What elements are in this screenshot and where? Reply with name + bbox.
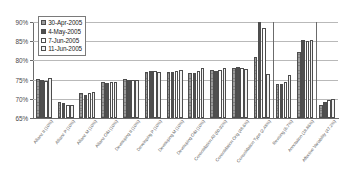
legend-item-label: 30-Apr-2005 xyxy=(48,19,82,26)
bar xyxy=(319,105,323,118)
chart-container: 65%70%75%80%85%90% Allianz II (10%)Allia… xyxy=(0,0,343,179)
y-axis-tick-label: 85% xyxy=(16,38,29,45)
bar xyxy=(214,71,218,118)
section-separator xyxy=(316,22,317,118)
bar-group xyxy=(229,22,251,118)
bar-group xyxy=(120,22,142,118)
y-axis-tick-label: 75% xyxy=(16,76,29,83)
bar xyxy=(123,79,127,118)
bar xyxy=(167,72,171,118)
bar xyxy=(301,40,305,118)
bar xyxy=(210,70,214,118)
bar xyxy=(44,81,48,118)
bar xyxy=(84,95,88,118)
legend-item: 4-May-2005 xyxy=(41,27,82,35)
y-axis-tick-label: 70% xyxy=(16,95,29,102)
bar xyxy=(58,102,62,118)
bar xyxy=(201,68,205,118)
bar xyxy=(114,82,118,118)
bar-group xyxy=(294,22,316,118)
bar xyxy=(135,80,139,118)
bar-group xyxy=(316,22,338,118)
bar xyxy=(276,84,280,118)
bar xyxy=(36,79,40,118)
bar xyxy=(92,92,96,118)
bar xyxy=(258,22,262,118)
section-separator xyxy=(273,22,274,118)
bar xyxy=(101,82,105,118)
x-axis-labels: Allianz II (10%)Allianz P (10%)Allianz M… xyxy=(33,119,338,179)
bar xyxy=(280,84,284,118)
bar xyxy=(188,73,192,118)
x-axis-tick-label: Allianz P (10%) xyxy=(54,119,76,145)
bar xyxy=(262,28,266,118)
x-axis-tick-label: Revising (6.7%) xyxy=(271,119,294,146)
chart-legend: 30-Apr-2005 4-May-2005 7-Jun-2005 11-Jun… xyxy=(38,16,86,56)
bar-group xyxy=(98,22,120,118)
bar xyxy=(331,99,335,118)
legend-item: 11-Jun-2005 xyxy=(41,45,82,53)
bar xyxy=(288,75,292,118)
legend-item-label: 4-May-2005 xyxy=(48,28,81,35)
bar xyxy=(297,52,301,118)
x-axis-tick-label: Allianz M (10%) xyxy=(75,119,97,146)
bar xyxy=(48,78,52,118)
bar xyxy=(232,68,236,118)
bar xyxy=(40,80,44,118)
bar xyxy=(240,68,244,118)
bar xyxy=(327,100,331,118)
legend-item: 7-Jun-2005 xyxy=(41,36,82,44)
series-0-swatch xyxy=(41,20,46,25)
bar xyxy=(306,41,310,118)
bar xyxy=(175,71,179,118)
bar-group xyxy=(251,22,273,118)
bar xyxy=(323,102,327,118)
bar xyxy=(197,71,201,118)
y-axis-tick-label: 80% xyxy=(16,57,29,64)
bar xyxy=(145,72,149,118)
bar xyxy=(171,72,175,118)
bar xyxy=(157,72,161,118)
y-axis-tick-label: 90% xyxy=(16,19,29,26)
legend-item-label: 11-Jun-2005 xyxy=(48,45,82,52)
bar-group xyxy=(185,22,207,118)
bar-group xyxy=(164,22,186,118)
series-3-swatch xyxy=(41,46,46,51)
bar xyxy=(223,68,227,118)
bar xyxy=(236,67,240,118)
bar-group xyxy=(207,22,229,118)
bar xyxy=(62,103,66,118)
bar xyxy=(110,82,114,118)
bar xyxy=(266,74,270,118)
series-1-swatch xyxy=(41,29,46,34)
legend-item-label: 7-Jun-2005 xyxy=(48,37,79,44)
bar xyxy=(105,83,109,118)
series-2-swatch xyxy=(41,38,46,43)
legend-item: 30-Apr-2005 xyxy=(41,19,82,27)
bar xyxy=(193,73,197,118)
bar xyxy=(179,70,183,118)
bar xyxy=(244,69,248,118)
bar xyxy=(66,105,70,118)
bar xyxy=(284,82,288,118)
bar xyxy=(149,71,153,118)
bar xyxy=(153,71,157,118)
bar xyxy=(131,80,135,118)
bar xyxy=(218,70,222,118)
bar xyxy=(254,57,258,118)
bar xyxy=(79,93,83,118)
bar xyxy=(310,40,314,118)
bar xyxy=(127,80,131,118)
y-axis-tick-label: 65% xyxy=(16,115,29,122)
x-axis-tick-label: Allianz II (10%) xyxy=(32,119,54,145)
bar xyxy=(70,105,74,118)
bar xyxy=(88,93,92,118)
bar-group xyxy=(273,22,295,118)
bar-group xyxy=(142,22,164,118)
